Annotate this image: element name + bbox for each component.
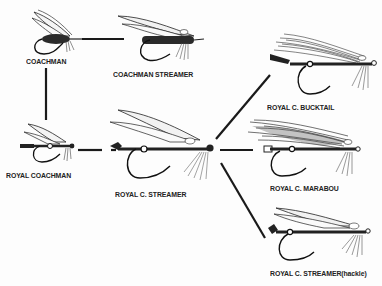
royal-c-streamer-hackle-fly-illustration bbox=[266, 204, 376, 266]
label-royal-c-bucktail: ROYAL C. BUCKTAIL bbox=[267, 103, 334, 112]
label-coachman-streamer: COACHMAN STREAMER bbox=[113, 70, 193, 79]
label-royal-c-marabou: ROYAL C. MARABOU bbox=[270, 184, 339, 193]
fly-family-diagram: COACHMAN COACHMAN STREAMER ROYAL COACHMA… bbox=[0, 0, 382, 286]
royal-coachman-fly-illustration bbox=[14, 122, 78, 166]
coachman-streamer-fly-illustration bbox=[114, 10, 206, 64]
royal-c-marabou-fly-illustration bbox=[244, 118, 368, 180]
label-royal-c-streamer: ROYAL C. STREAMER bbox=[115, 190, 186, 199]
coachman-fly-illustration bbox=[26, 8, 84, 56]
label-royal-coachman: ROYAL COACHMAN bbox=[6, 171, 71, 180]
label-coachman: COACHMAN bbox=[26, 57, 66, 66]
royal-c-streamer-fly-illustration bbox=[108, 108, 220, 182]
royal-c-bucktail-fly-illustration bbox=[266, 32, 380, 98]
label-royal-c-streamer-hackle: ROYAL C. STREAMER(hackle) bbox=[270, 269, 367, 278]
